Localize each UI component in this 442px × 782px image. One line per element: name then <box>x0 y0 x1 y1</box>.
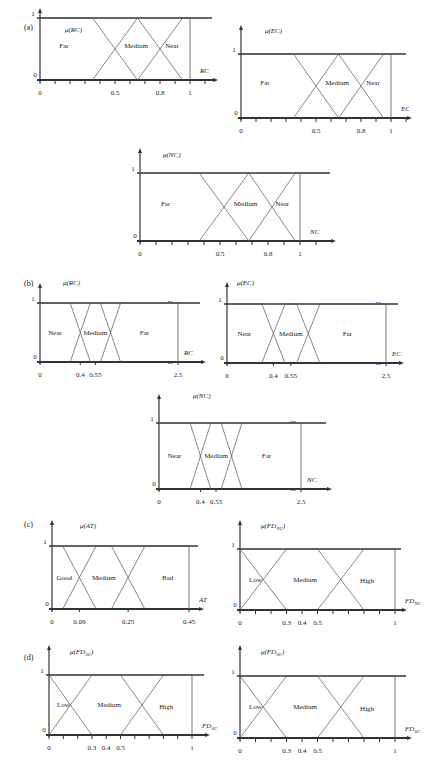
y-tick-label: 0 <box>234 109 238 117</box>
x-axis-label: FDSC <box>201 722 218 731</box>
y-axis-arrow-icon <box>157 394 161 399</box>
fuzzy-set-label: High <box>360 577 375 585</box>
x-axis-arrow-icon <box>213 78 218 82</box>
x-axis-arrow-icon <box>399 361 404 365</box>
fuzzy-set-label: Near <box>48 329 62 337</box>
membership-fn-bad <box>111 546 189 609</box>
y-axis-arrow-icon <box>238 645 242 650</box>
x-axis-label: FDSC <box>404 725 421 734</box>
fuzzy-set-label: Bad <box>162 574 174 582</box>
x-tick-label: 1 <box>393 747 397 755</box>
x-tick-label: 0.55 <box>210 498 223 506</box>
x-tick-label: 2.5 <box>174 371 183 379</box>
panel-label: (a) <box>24 23 33 32</box>
fuzzy-set-label: Medium <box>97 701 121 709</box>
y-axis-arrow-icon <box>38 8 42 13</box>
fuzzy-set-label: Near <box>238 330 252 338</box>
x-tick-label: 0.8 <box>264 250 273 258</box>
x-axis-label: RC <box>199 67 209 75</box>
fuzzy-set-label: Medium <box>204 452 228 460</box>
x-tick-label: 0.5 <box>313 747 322 755</box>
x-tick-label: 0.3 <box>88 744 97 752</box>
y-tick-label: 0 <box>133 232 137 240</box>
x-tick-label: 0 <box>238 747 242 755</box>
y-tick-label: 1 <box>40 667 44 675</box>
x-tick-label: 0.55 <box>89 371 102 379</box>
x-axis-label: NC <box>309 228 320 236</box>
x-axis-label: AT <box>198 596 208 604</box>
y-tick-label: 1 <box>150 415 154 423</box>
x-tick-label: 0.8 <box>357 127 366 135</box>
axis-break-ellipsis: ... <box>375 297 381 305</box>
x-tick-label: 0.55 <box>285 372 298 380</box>
chart-panel-b-nc: 10μ(NC)00.40.552.5NC......NearMediumFar <box>150 392 332 506</box>
x-tick-label: 1 <box>190 744 194 752</box>
fuzzy-set-label: Near <box>168 452 182 460</box>
x-tick-label: 0.4 <box>76 371 85 379</box>
fuzzy-set-label: Near <box>366 79 380 87</box>
y-tick-label: 0 <box>33 71 37 79</box>
panel-label: (b) <box>24 279 34 288</box>
fuzzy-set-label: High <box>159 703 174 711</box>
fuzzy-set-label: High <box>360 705 375 713</box>
x-tick-label: 0 <box>50 618 54 626</box>
x-tick-label: 0.25 <box>122 618 135 626</box>
y-axis-label: μ(NC) <box>163 151 181 159</box>
y-tick-label: 1 <box>218 296 222 304</box>
y-tick-label: 0 <box>233 729 237 737</box>
x-tick-label: 0.4 <box>298 747 307 755</box>
y-axis-label: μ(AT) <box>80 522 97 530</box>
x-tick-label: 1 <box>188 89 192 97</box>
x-axis-label: FDNC <box>404 597 422 606</box>
x-tick-label: 1 <box>393 619 397 627</box>
y-tick-label: 1 <box>232 46 236 54</box>
y-axis-label: μ(EC) <box>237 279 255 287</box>
membership-fn-far <box>140 173 249 241</box>
axis-break-ellipsis: ... <box>290 416 296 424</box>
chart-panel-b-rc: (b)10μ(RC)00.40.552.5RC......NearMediumF… <box>24 279 206 379</box>
fuzzy-set-label: Low <box>249 703 263 711</box>
x-tick-label: 1 <box>298 250 302 258</box>
fuzzy-set-label: Far <box>260 79 270 87</box>
x-axis-arrow-icon <box>205 733 210 737</box>
y-axis-label: μ(NC) <box>193 392 211 400</box>
x-axis-label: RC <box>183 349 193 357</box>
x-tick-label: 0.3 <box>282 747 291 755</box>
fuzzy-set-label: Near <box>276 200 290 208</box>
fuzzy-set-label: Far <box>343 330 353 338</box>
y-tick-label: 0 <box>220 354 224 362</box>
x-tick-label: 0.8 <box>156 89 165 97</box>
fuzzy-set-label: Medium <box>234 200 258 208</box>
axis-break-ellipsis: ... <box>290 485 296 493</box>
panel-label: (c) <box>24 520 33 529</box>
membership-fn-near <box>227 304 285 363</box>
x-tick-label: 0.09 <box>73 618 86 626</box>
membership-fn-high <box>318 549 396 610</box>
axis-break-ellipsis: ... <box>375 359 381 367</box>
x-axis-label: EC <box>400 105 410 113</box>
x-axis-label: NC <box>306 476 317 484</box>
x-tick-label: 0.45 <box>183 618 196 626</box>
y-axis-label: μ(FDNC) <box>261 522 286 531</box>
y-tick-label: 0 <box>45 600 49 608</box>
x-tick-label: 0 <box>138 250 142 258</box>
x-tick-label: 0 <box>238 619 242 627</box>
axis-break-ellipsis: ... <box>167 296 173 304</box>
chart-panel-b-ec: 10μ(EC)00.40.552.5EC......NearMediumFar <box>218 279 404 380</box>
y-tick-label: 1 <box>231 541 235 549</box>
x-axis-label: EC <box>391 350 401 358</box>
panel-label: (d) <box>24 653 34 662</box>
fuzzy-set-label: Medium <box>84 329 108 337</box>
x-tick-label: 1 <box>389 127 393 135</box>
x-tick-label: 0.3 <box>282 619 291 627</box>
fuzzy-set-label: Low <box>249 576 263 584</box>
x-tick-label: 0.5 <box>216 250 225 258</box>
x-tick-label: 0.5 <box>312 127 321 135</box>
x-axis-arrow-icon <box>331 239 336 243</box>
x-tick-label: 0.4 <box>298 619 307 627</box>
fuzzy-set-label: Far <box>59 42 69 50</box>
fuzzy-set-label: Medium <box>92 574 116 582</box>
chart-panel-a-rc: (a)10μ(RC)00.50.81RCFarMediumNear <box>24 8 218 97</box>
fuzzy-set-label: Far <box>262 452 272 460</box>
y-axis-label: μ(RC) <box>65 26 83 34</box>
